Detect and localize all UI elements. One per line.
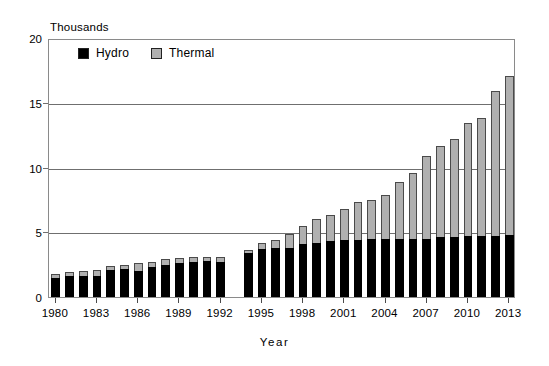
x-axis-tick-label: 2001 (330, 307, 356, 319)
x-axis-tick-mark (96, 298, 97, 303)
legend-label: Hydro (96, 46, 129, 60)
y-axis-tick-mark (43, 103, 48, 104)
y-axis-tick-label: 15 (12, 98, 42, 110)
x-axis-tick-mark (55, 298, 56, 303)
y-axis-tick-label: 10 (12, 163, 42, 175)
legend-item: Thermal (151, 46, 214, 60)
y-axis-tick-label: 20 (12, 33, 42, 45)
x-axis-tick-label: 1980 (42, 307, 68, 319)
legend-swatch-hydro (78, 48, 89, 59)
x-axis-tick-label: 1998 (289, 307, 315, 319)
x-axis-tick-mark (426, 298, 427, 303)
x-axis-tick-label: 1995 (248, 307, 274, 319)
x-axis-tick-label: 1989 (165, 307, 191, 319)
legend-swatch-thermal (151, 48, 162, 59)
y-axis-tick-label: 5 (12, 227, 42, 239)
legend: HydroThermal (78, 46, 214, 60)
x-axis-tick-mark (220, 298, 221, 303)
x-axis-tick-mark (302, 298, 303, 303)
legend-item: Hydro (78, 46, 129, 60)
x-axis-tick-label: 1992 (206, 307, 232, 319)
x-axis-tick-mark (467, 298, 468, 303)
x-axis-tick-label: 1983 (83, 307, 109, 319)
x-axis-tick-label: 2004 (371, 307, 397, 319)
x-axis-tick-label: 2007 (413, 307, 439, 319)
x-axis-tick-mark (137, 298, 138, 303)
x-axis-tick-mark (385, 298, 386, 303)
x-axis-tick-label: 2013 (495, 307, 521, 319)
x-axis-tick-mark (178, 298, 179, 303)
x-axis-title: Year (0, 336, 549, 348)
x-axis-tick-mark (508, 298, 509, 303)
legend-label: Thermal (169, 46, 214, 60)
bar-chart: Thousands 05101520 198019831986198919921… (0, 0, 549, 366)
x-axis-tick-mark (261, 298, 262, 303)
y-axis-tick-mark (43, 232, 48, 233)
x-axis-tick-label: 1986 (124, 307, 150, 319)
y-axis-tick-label: 0 (12, 292, 42, 304)
x-axis-tick-mark (343, 298, 344, 303)
y-axis-tick-mark (43, 168, 48, 169)
x-axis-tick-label: 2010 (454, 307, 480, 319)
